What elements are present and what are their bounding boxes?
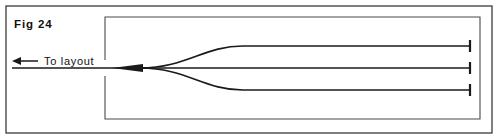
- figure-caption: Fig 24: [14, 18, 53, 30]
- to-layout-label: To layout: [44, 55, 94, 67]
- figure-container: Fig 24 To layout: [0, 0, 499, 140]
- track-diagram: Fig 24 To layout: [0, 0, 499, 140]
